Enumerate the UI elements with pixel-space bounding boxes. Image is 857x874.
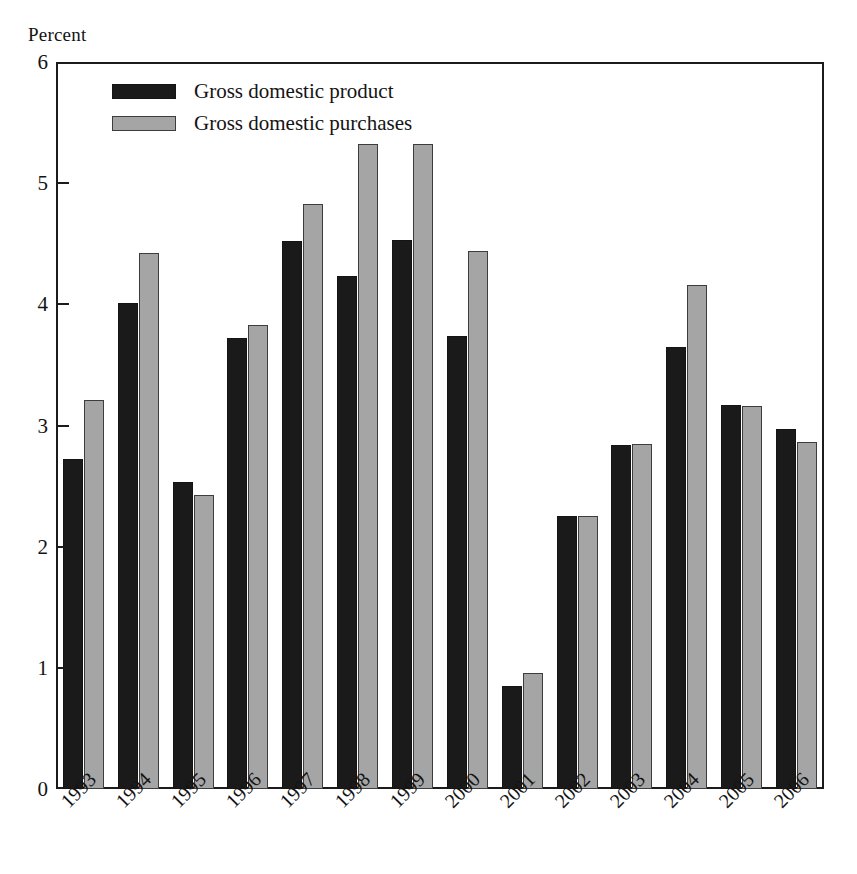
bar-group	[440, 62, 495, 789]
y-axis-tick-label: 2	[2, 537, 48, 558]
bar-gross-domestic-purchases	[742, 406, 762, 789]
bar-gross-domestic-product	[666, 347, 686, 789]
bar-gross-domestic-purchases	[687, 285, 707, 789]
bar-gross-domestic-purchases	[84, 400, 104, 789]
bar-gross-domestic-purchases	[248, 325, 268, 789]
bar-gross-domestic-purchases	[632, 444, 652, 789]
bar-group	[221, 62, 276, 789]
y-axis-tick-label: 1	[2, 658, 48, 679]
bar-group	[605, 62, 660, 789]
bar-gross-domestic-product	[721, 405, 741, 789]
bar-group	[275, 62, 330, 789]
bar-gross-domestic-purchases	[578, 516, 598, 789]
legend-swatch-icon	[112, 84, 176, 99]
bar-chart-figure: Percent 0123456 199319941995199619971998…	[0, 0, 857, 874]
bar-gross-domestic-product	[557, 516, 577, 789]
bar-gross-domestic-product	[392, 240, 412, 789]
legend-swatch-icon	[112, 116, 176, 131]
y-axis-tick-mark	[56, 303, 69, 305]
legend-item: Gross domestic purchases	[112, 108, 442, 138]
y-axis-tick-label: 5	[2, 173, 48, 194]
bar-gross-domestic-product	[282, 241, 302, 789]
bar-group	[111, 62, 166, 789]
bar-gross-domestic-purchases	[303, 204, 323, 789]
bar-gross-domestic-purchases	[194, 495, 214, 789]
bar-gross-domestic-product	[447, 336, 467, 789]
bar-group	[166, 62, 221, 789]
bar-gross-domestic-product	[337, 276, 357, 789]
bar-group	[330, 62, 385, 789]
bar-group	[550, 62, 605, 789]
bar-group	[714, 62, 769, 789]
bar-gross-domestic-purchases	[797, 442, 817, 789]
x-axis-labels: 1993199419951996199719981999200020012002…	[56, 789, 824, 874]
bar-gross-domestic-product	[776, 429, 796, 789]
bar-gross-domestic-product	[63, 459, 83, 789]
y-axis-tick-label: 4	[2, 294, 48, 315]
y-axis-labels: 0123456	[0, 0, 48, 874]
plot-area	[56, 62, 824, 789]
y-axis-tick-mark	[56, 425, 69, 427]
bar-gross-domestic-purchases	[413, 144, 433, 789]
bar-gross-domestic-purchases	[358, 144, 378, 789]
bar-group	[385, 62, 440, 789]
bar-group	[659, 62, 714, 789]
legend-item: Gross domestic product	[112, 76, 442, 106]
bar-gross-domestic-product	[227, 338, 247, 789]
y-axis-tick-label: 6	[2, 52, 48, 73]
legend-label: Gross domestic product	[194, 81, 393, 102]
bar-gross-domestic-purchases	[468, 251, 488, 789]
y-axis-tick-mark	[56, 182, 69, 184]
y-axis-tick-mark	[56, 667, 69, 669]
y-axis-tick-mark	[56, 546, 69, 548]
bar-group	[495, 62, 550, 789]
bar-gross-domestic-product	[118, 303, 138, 789]
chart-legend: Gross domestic productGross domestic pur…	[112, 76, 442, 140]
bar-gross-domestic-purchases	[139, 253, 159, 789]
bar-group	[769, 62, 824, 789]
y-axis-tick-label: 3	[2, 416, 48, 437]
bar-gross-domestic-product	[611, 445, 631, 789]
y-axis-tick-label: 0	[2, 779, 48, 800]
bar-gross-domestic-product	[173, 482, 193, 789]
legend-label: Gross domestic purchases	[194, 113, 412, 134]
